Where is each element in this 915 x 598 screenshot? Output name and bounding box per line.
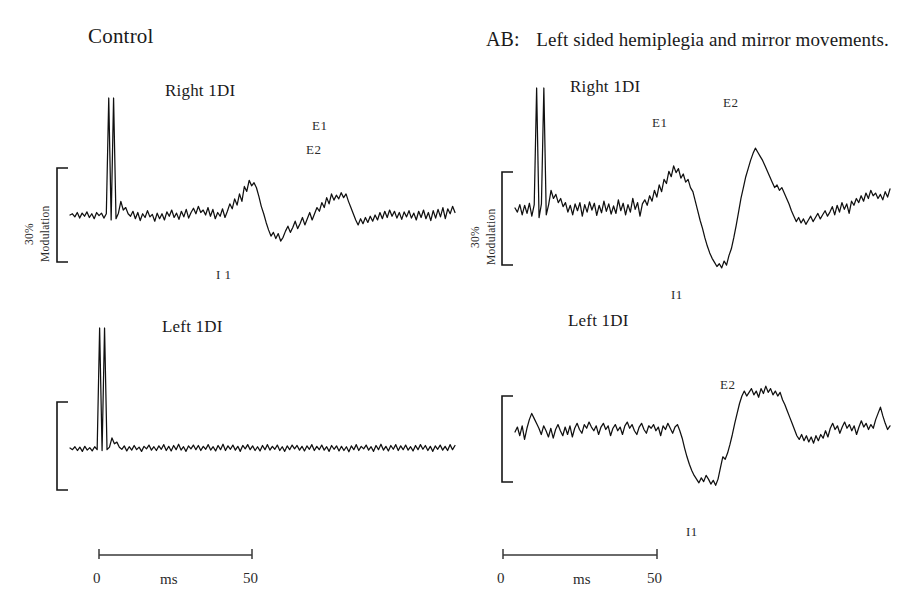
- trace-control-right-1di: [70, 98, 455, 241]
- trace-ab-left-1di: [515, 386, 890, 485]
- scale-bracket-ab-right: [502, 172, 513, 265]
- scale-bracket-ab-left: [502, 396, 513, 482]
- traces-canvas: [0, 0, 915, 598]
- scale-bracket-control-right: [57, 168, 68, 262]
- trace-control-left-1di: [70, 328, 455, 452]
- trace-ab-right-1di: [515, 88, 890, 268]
- time-axis-ab: [503, 549, 657, 559]
- time-axis-control: [99, 549, 252, 559]
- figure-root: Control AB: Left sided hemiplegia and mi…: [0, 0, 915, 598]
- scale-bracket-control-left: [57, 402, 68, 490]
